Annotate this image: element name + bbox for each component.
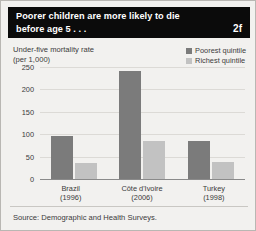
y-axis: 250 200 150 100 50 0 [13,67,37,179]
figure-header-bar: Poorer children are more likely to die b… [8,7,250,38]
figure-card: Poorer children are more likely to die b… [0,0,256,231]
x-label-year: (2006) [121,193,162,202]
bar-group-turkey [188,67,234,179]
y-tick-label: 50 [26,152,34,161]
bar-group-cote-divoire [119,67,165,179]
bar-poorest [51,136,73,179]
x-axis-labels: Brazil (1996) Côte d'Ivoire (2006) Turke… [40,184,245,202]
chart-plot: 250 200 150 100 50 0 [13,67,245,183]
bar-poorest [119,71,141,179]
y-tick-label: 250 [22,63,34,72]
x-label-brazil: Brazil (1996) [60,184,81,202]
figure-number-badge: 2f [233,23,242,34]
bar-poorest [188,141,210,179]
chart-legend: Poorest quintile Richest quintile [186,46,246,65]
legend-item-richest: Richest quintile [186,56,246,65]
y-axis-title-line1: Under-five mortality rate [13,45,94,55]
x-label-name: Turkey [203,184,225,193]
y-axis-title: Under-five mortality rate (per 1,000) [13,45,94,64]
bar-group-brazil [51,67,97,179]
x-label-year: (1996) [60,193,81,202]
bar-richest [212,162,234,179]
x-label-name: Brazil [60,184,81,193]
y-tick-label: 0 [30,175,34,184]
x-label-cote-divoire: Côte d'Ivoire (2006) [121,184,162,202]
legend-item-poorest: Poorest quintile [186,46,246,55]
legend-label-richest: Richest quintile [195,56,245,65]
y-tick-label: 100 [22,130,34,139]
x-label-turkey: Turkey (1998) [203,184,225,202]
figure-title: Poorer children are more likely to die b… [16,10,196,35]
plot-area [40,67,245,180]
y-tick-label: 200 [22,85,34,94]
x-label-name: Côte d'Ivoire [121,184,162,193]
source-note: Source: Demographic and Health Surveys. [13,213,157,222]
square-swatch-icon [186,58,192,64]
legend-label-poorest: Poorest quintile [195,46,246,55]
bar-richest [143,141,165,179]
square-swatch-icon [186,48,192,54]
bar-groups [40,67,245,179]
y-tick-label: 150 [22,107,34,116]
footer-divider [10,206,248,207]
bar-richest [75,163,97,179]
x-label-year: (1998) [203,193,225,202]
